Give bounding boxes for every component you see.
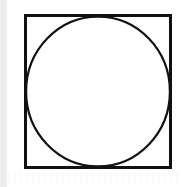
figure-canvas: Circle inscribed in a square A black out… [0, 0, 182, 187]
bottom-scan-noise [8, 173, 182, 183]
inscribed-circle-shape [26, 17, 170, 167]
geometry-figure: Circle inscribed in a square A black out… [0, 0, 182, 187]
